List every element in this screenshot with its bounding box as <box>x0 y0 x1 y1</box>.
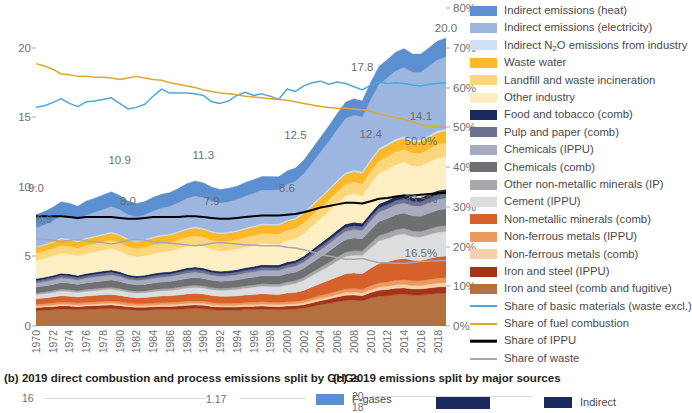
legend-item[interactable]: Chemicals (IPPU) <box>470 141 656 158</box>
x-axis-tick: 2018 <box>432 330 444 353</box>
y-axis-left-tick: 15 <box>18 111 31 123</box>
x-axis-tick: 2014 <box>398 330 410 353</box>
legend-item-label: Indirect N2O emissions from industry <box>504 40 687 51</box>
legend-item-label: Iron and steel (IPPU) <box>504 266 609 277</box>
legend-item[interactable]: Non-ferrous metals (comb) <box>470 245 656 262</box>
y-axis-right-tick-mark <box>446 87 450 88</box>
legend-swatch-icon <box>470 267 497 277</box>
legend-item[interactable]: Chemicals (comb) <box>470 159 656 176</box>
y-axis-right-tick-mark <box>446 127 450 128</box>
legend-item-label: Indirect emissions (electricity) <box>504 22 652 33</box>
x-axis-tick: 1972 <box>47 330 59 353</box>
y-axis-left-tick-mark <box>32 47 36 48</box>
legend-item-label: Chemicals (comb) <box>504 162 595 173</box>
legend-item-label: Pulp and paper (comb) <box>504 127 619 138</box>
x-axis-tick: 1990 <box>197 330 209 353</box>
legend-item[interactable]: Landfill and waste incineration <box>470 72 656 89</box>
legend-item[interactable]: Other non-metallic minerals (IP) <box>470 176 656 193</box>
x-axis-tick: 2000 <box>281 330 293 353</box>
legend-item-label: Non-metallic minerals (comb) <box>504 214 651 225</box>
chart-legend: Indirect emissions (heat)Indirect emissi… <box>470 2 656 367</box>
y-axis-right-tick-mark <box>446 167 450 168</box>
legend-item-label: Share of fuel combustion <box>504 318 629 329</box>
legend-item[interactable]: Other industry <box>470 89 656 106</box>
legend-item[interactable]: Indirect emissions (heat) <box>470 2 656 19</box>
legend-line-icon <box>470 336 497 346</box>
panel-b-y-top: 16 <box>22 392 34 404</box>
x-axis-tick: 2010 <box>365 330 377 353</box>
x-axis-tick: 1986 <box>164 330 176 353</box>
panel-c-legend-swatch <box>544 397 572 408</box>
legend-swatch-icon <box>470 180 497 190</box>
legend-swatch-icon <box>470 110 497 120</box>
legend-swatch-icon <box>470 162 497 172</box>
x-axis-tick: 1980 <box>114 330 126 353</box>
x-axis-tick: 1982 <box>130 330 142 353</box>
legend-item-label: Waste water <box>504 57 566 68</box>
legend-line-icon <box>470 301 497 311</box>
y-axis-right-tick-mark <box>446 286 450 287</box>
x-axis-tick: 1996 <box>248 330 260 353</box>
legend-item[interactable]: Iron and steel (comb and fugitive) <box>470 280 656 297</box>
y-axis-right-tick-mark <box>446 8 450 9</box>
y-axis-left-tick: 5 <box>25 250 31 262</box>
y-axis-left-tick: 20 <box>18 42 31 54</box>
legend-swatch-icon <box>470 75 497 85</box>
x-axis-tick: 1984 <box>147 330 159 353</box>
x-axis-tick: 2016 <box>415 330 427 353</box>
y-axis-right-tick: 0% <box>453 320 470 332</box>
legend-item-label: Share of IPPU <box>504 335 576 346</box>
legend-item-label: Non-ferrous metals (IPPU) <box>504 231 637 242</box>
legend-item-label: Chemicals (IPPU) <box>504 144 594 155</box>
stacked-area-chart <box>36 8 446 326</box>
legend-swatch-icon <box>470 232 497 242</box>
panel-c-caption: (c) 2019 emissions split by major source… <box>333 372 561 384</box>
legend-swatch-icon <box>470 40 497 50</box>
x-axis-tick: 2002 <box>298 330 310 353</box>
x-axis-tick: 1978 <box>97 330 109 353</box>
plot-frame: 05101520 0%10%20%30%40%50%60%70%80% 1970… <box>36 8 446 326</box>
legend-item-label: Other non-metallic minerals (IP) <box>504 179 663 190</box>
x-axis-tick: 1988 <box>181 330 193 353</box>
legend-item[interactable]: Share of basic materials (waste excl.) <box>470 298 656 315</box>
x-axis-tick: 1974 <box>63 330 75 353</box>
legend-item[interactable]: Iron and steel (IPPU) <box>470 263 656 280</box>
legend-item[interactable]: Non-ferrous metals (IPPU) <box>470 228 656 245</box>
x-axis-tick: 2004 <box>314 330 326 353</box>
legend-swatch-icon <box>470 284 497 294</box>
y-axis-right-tick-mark <box>446 206 450 207</box>
legend-item[interactable]: Indirect emissions (electricity) <box>470 19 656 36</box>
legend-item[interactable]: Cement (IPPU) <box>470 193 656 210</box>
legend-line-icon <box>470 354 497 364</box>
legend-swatch-icon <box>470 23 497 33</box>
legend-line-icon <box>470 319 497 329</box>
legend-item[interactable]: Indirect N2O emissions from industry <box>470 37 656 54</box>
x-axis-tick: 1992 <box>214 330 226 353</box>
legend-item-label: Food and tobacco (comb) <box>504 109 633 120</box>
x-axis-tick: 1998 <box>264 330 276 353</box>
legend-item[interactable]: Pulp and paper (comb) <box>470 124 656 141</box>
legend-item-label: Share of waste <box>504 353 579 364</box>
legend-item[interactable]: Share of waste <box>470 350 656 367</box>
legend-item[interactable]: Food and tobacco (comb) <box>470 106 656 123</box>
legend-item[interactable]: Waste water <box>470 54 656 71</box>
panel-b-gridline <box>44 398 206 399</box>
legend-item[interactable]: Share of IPPU <box>470 332 656 349</box>
panel-b-gridline-2 <box>240 398 306 399</box>
x-axis-tick: 1976 <box>80 330 92 353</box>
y-axis-left-tick-mark <box>32 256 36 257</box>
y-axis-left-tick-mark <box>32 186 36 187</box>
legend-item-label: Other industry <box>504 92 575 103</box>
y-axis-right-tick-mark <box>446 326 450 327</box>
legend-swatch-icon <box>470 93 497 103</box>
legend-swatch-icon <box>470 197 497 207</box>
legend-swatch-icon <box>470 6 497 16</box>
y-axis-left-tick: 10 <box>18 181 31 193</box>
y-axis-right-tick-mark <box>446 47 450 48</box>
panel-b-legend-swatch <box>316 394 344 405</box>
legend-item[interactable]: Non-metallic minerals (comb) <box>470 211 656 228</box>
legend-item-label: Iron and steel (comb and fugitive) <box>504 283 672 294</box>
legend-swatch-icon <box>470 249 497 259</box>
legend-item[interactable]: Share of fuel combustion <box>470 315 656 332</box>
panel-c-bar <box>436 397 490 409</box>
